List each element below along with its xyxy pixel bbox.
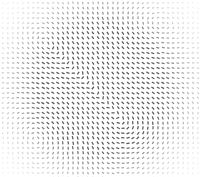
vector-field-plot-canvas bbox=[0, 0, 201, 177]
vector-field-figure bbox=[0, 0, 201, 177]
